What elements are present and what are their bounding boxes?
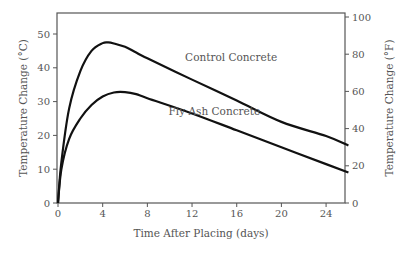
x-axis-label: Time After Placing (days) [133, 227, 268, 239]
y-right-tick-label: 40 [352, 123, 365, 134]
series-lines [58, 42, 348, 203]
x-tick-label: 24 [320, 208, 333, 219]
x-tick-label: 20 [275, 208, 288, 219]
y-right-tick-label: 100 [352, 12, 371, 23]
labels: Time After Placing (days)Temperature Cha… [17, 39, 395, 239]
y-tick-label: 30 [37, 96, 50, 107]
x-tick-label: 8 [144, 208, 150, 219]
y-tick-label: 40 [37, 62, 50, 73]
series-line [58, 42, 348, 203]
temperature-chart: 0481216202401020304050020406080100 Time … [0, 0, 404, 253]
y-right-tick-label: 20 [352, 160, 365, 171]
y-tick-label: 50 [37, 29, 50, 40]
y-right-tick-label: 60 [352, 86, 365, 97]
y-tick-label: 10 [37, 164, 50, 175]
y-axis-label: Temperature Change (°C) [17, 39, 29, 177]
x-tick-label: 16 [230, 208, 243, 219]
y-tick-label: 20 [37, 130, 50, 141]
x-tick-label: 12 [186, 208, 199, 219]
x-tick-label: 4 [99, 208, 105, 219]
y-right-axis-label: Temperature Change (°F) [383, 40, 395, 177]
series-annotation: Control Concrete [185, 51, 277, 63]
x-tick-label: 0 [55, 208, 61, 219]
y-tick-label: 0 [44, 198, 50, 209]
series-annotation: Fly Ash Concrete [169, 105, 261, 117]
y-right-tick-label: 80 [352, 49, 365, 60]
y-right-tick-label: 0 [352, 198, 358, 209]
